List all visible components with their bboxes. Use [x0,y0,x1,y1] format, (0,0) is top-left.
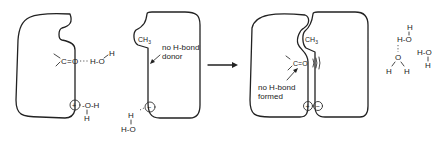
bond-line [392,62,395,66]
water-ho: H-O [121,125,136,134]
water3-ho: H-O [417,48,432,57]
water1-ho: H-O [397,35,412,44]
water2-hb: H [404,67,410,76]
water-h-top: H [109,49,115,58]
complex-carbonyl: C=O [293,60,308,67]
water-ho: H-O [90,57,105,66]
bond-line [56,62,60,66]
complex-ligand-outline [303,12,368,117]
bond-line [54,54,60,58]
carbonyl-o: O [72,57,78,66]
bond-line [401,62,404,66]
complex-negative-charge: − [316,103,320,110]
methyl-group: CH3 [138,36,151,45]
negative-charge: − [147,104,151,111]
water-h: H [128,111,134,120]
complex-methyl: CH3 [305,36,318,45]
arrow-head-icon [232,62,238,68]
annotation-no-hbond-line1: no H-bond [258,83,295,92]
water1-h: H [407,23,413,32]
water2-ha: H [386,67,392,76]
ligand-outline [134,12,200,118]
charged-water-oh: -O-H [82,101,100,110]
annotation-no-donor-line1: no H-bond [162,43,199,52]
ionic-interaction [140,108,144,110]
water2-o: O [395,53,401,62]
repulsion-icon [313,57,320,69]
positive-charge: + [72,102,76,109]
diagram-canvas: C = O H-O H + -O-H H CH3 no H-bond donor… [0,0,447,141]
annotation-no-donor-line2: donor [162,52,183,61]
water3-h: H [425,61,431,70]
charged-water-h: H [84,114,90,123]
bond-line [286,56,290,59]
annotation-no-hbond-line2: formed [258,92,283,101]
binding-diagram: C = O H-O H + -O-H H CH3 no H-bond donor… [0,0,447,141]
bond-line [288,66,292,70]
complex-positive-charge: + [306,103,310,110]
